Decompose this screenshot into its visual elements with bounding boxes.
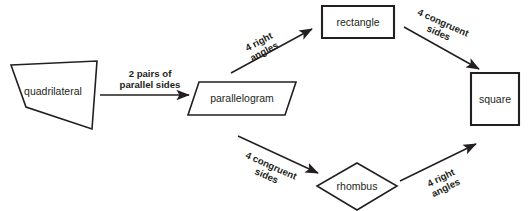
- node-parallelogram: parallelogram: [188, 82, 296, 115]
- edge-label-quadrilateral-to-parallelogram: 2 pairs ofparallel sides: [120, 68, 181, 90]
- flowchart-canvas: 2 pairs ofparallel sides4 rightangles4 c…: [0, 0, 530, 211]
- edge-quadrilateral-to-parallelogram: 2 pairs ofparallel sides: [100, 68, 189, 95]
- flowchart-svg: 2 pairs ofparallel sides4 rightangles4 c…: [0, 0, 530, 211]
- node-label-rhombus: rhombus: [337, 180, 378, 192]
- edge-label-rectangle-to-square: 4 congruentsides: [412, 6, 472, 49]
- node-quadrilateral: quadrilateral: [11, 61, 97, 129]
- node-label-parallelogram: parallelogram: [210, 92, 274, 104]
- node-rectangle: rectangle: [322, 6, 394, 38]
- edge-rhombus-to-square: 4 rightangles: [400, 144, 476, 199]
- edge-label-parallelogram-to-rectangle: 4 rightangles: [243, 29, 280, 63]
- node-label-square: square: [479, 93, 511, 105]
- node-rhombus: rhombus: [317, 163, 397, 210]
- node-label-quadrilateral: quadrilateral: [24, 85, 82, 97]
- edge-rectangle-to-square: 4 congruentsides: [404, 6, 479, 69]
- node-square: square: [471, 73, 519, 125]
- edge-label-line1: 2 pairs of: [129, 68, 172, 79]
- edge-parallelogram-to-rectangle: 4 rightangles: [231, 29, 312, 73]
- edge-label-rhombus-to-square: 4 rightangles: [424, 165, 461, 198]
- edge-label-parallelogram-to-rhombus: 4 congruentsides: [240, 149, 300, 192]
- edge-label-line2: parallel sides: [120, 79, 181, 90]
- node-label-rectangle: rectangle: [336, 16, 379, 28]
- edge-parallelogram-to-rhombus: 4 congruentsides: [238, 136, 318, 192]
